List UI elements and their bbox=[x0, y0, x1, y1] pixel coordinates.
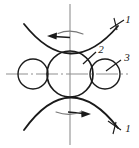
technical-diagram-figure: 1 2 3 1 bbox=[0, 0, 139, 148]
diagram-canvas: 1 2 3 1 bbox=[0, 0, 139, 148]
label-1-bottom: 1 bbox=[125, 122, 131, 134]
leader-line-1-top bbox=[110, 18, 124, 30]
upper-arc bbox=[24, 24, 118, 54]
label-1-top: 1 bbox=[125, 13, 131, 25]
label-3: 3 bbox=[123, 51, 130, 63]
lower-arc bbox=[24, 97, 118, 130]
label-2: 2 bbox=[98, 43, 104, 55]
